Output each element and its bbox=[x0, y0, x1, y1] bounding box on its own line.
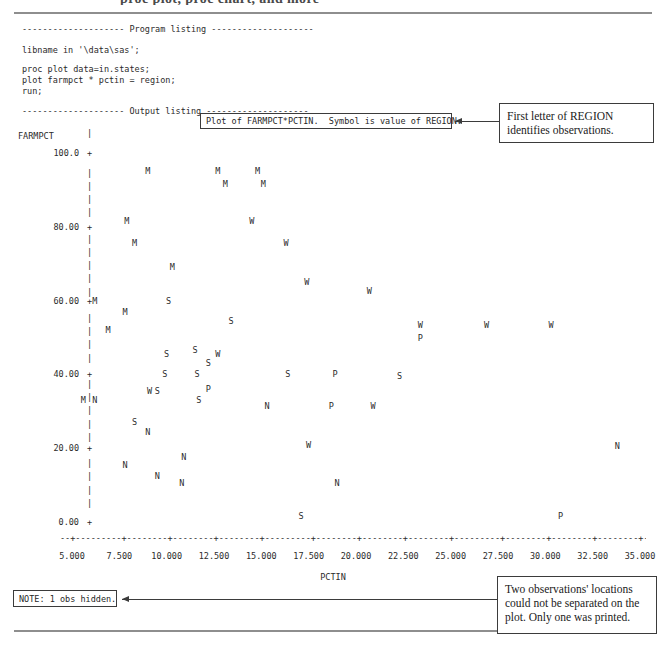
y-axis-stem: | bbox=[87, 181, 92, 191]
x-axis-tick-label: 32.500 bbox=[577, 551, 608, 561]
y-axis-stem: | bbox=[87, 498, 92, 508]
plot-point-N: N bbox=[264, 401, 269, 410]
x-axis-tick-label: 25.000 bbox=[435, 551, 466, 561]
y-axis-stem: | bbox=[87, 432, 92, 442]
plot-point-M: M bbox=[145, 167, 150, 176]
y-axis-stem: | bbox=[87, 419, 92, 429]
y-axis-stem: | bbox=[87, 273, 92, 283]
plot-point-M: M bbox=[92, 296, 97, 305]
y-axis-stem: | bbox=[87, 458, 92, 468]
y-axis-tick-label: 60.00 bbox=[29, 296, 79, 306]
plot-point-W: W bbox=[147, 387, 152, 396]
x-axis-tick-label: 30.000 bbox=[530, 551, 561, 561]
plot-point-W: W bbox=[249, 217, 254, 226]
plot-point-S: S bbox=[194, 370, 199, 379]
y-axis-tick-mark: + bbox=[87, 369, 92, 379]
y-axis-stem: | bbox=[87, 207, 92, 217]
plot-point-N: N bbox=[122, 460, 127, 469]
plot-point-N: N bbox=[145, 427, 150, 436]
plot-point-S: S bbox=[193, 346, 198, 355]
plot-point-W: W bbox=[418, 320, 423, 329]
plot-point-W: W bbox=[283, 239, 288, 248]
plot-point-N: N bbox=[92, 396, 97, 405]
plot-point-M: M bbox=[215, 167, 220, 176]
y-axis-stem: | bbox=[87, 194, 92, 204]
plot-point-S: S bbox=[206, 359, 211, 368]
y-axis-stem: | bbox=[87, 313, 92, 323]
y-axis-stem: | bbox=[87, 326, 92, 336]
y-axis-label: FARMPCT bbox=[18, 131, 54, 141]
note-obs-hidden: NOTE: 1 obs hidden. bbox=[13, 590, 117, 607]
plot-point-M: M bbox=[124, 217, 129, 226]
plot-point-N: N bbox=[335, 479, 340, 488]
plot-point-S: S bbox=[166, 296, 171, 305]
y-axis-tick-label: 0.00 bbox=[29, 517, 79, 527]
plot-point-W: W bbox=[215, 350, 220, 359]
plot-point-W: W bbox=[484, 320, 489, 329]
callout-hidden-note: Two observations' locations could not be… bbox=[497, 576, 657, 634]
x-axis-tick-label: 22.500 bbox=[388, 551, 419, 561]
plot-point-N: N bbox=[179, 479, 184, 488]
plot-point-P: P bbox=[558, 512, 563, 521]
y-axis-stem: | bbox=[87, 339, 92, 349]
plot-point-W: W bbox=[304, 278, 309, 287]
y-axis-tick-mark: + bbox=[87, 517, 92, 527]
x-axis-tick-label: 12.500 bbox=[199, 551, 230, 561]
x-axis-line: --+---------+--------+--------+--------+… bbox=[60, 533, 646, 543]
plot-point-S: S bbox=[155, 387, 160, 396]
plot-point-W: W bbox=[548, 320, 553, 329]
x-axis-tick-label: 35.000 bbox=[625, 551, 656, 561]
x-axis-tick-label: 7.500 bbox=[107, 551, 133, 561]
plot-point-S: S bbox=[228, 316, 233, 325]
plot-point-P: P bbox=[418, 333, 423, 342]
plot-point-P: P bbox=[333, 370, 338, 379]
plot-point-P: P bbox=[206, 385, 211, 394]
y-axis-stem: | bbox=[87, 260, 92, 270]
y-axis-stem: | bbox=[87, 234, 92, 244]
plot-point-N: N bbox=[615, 442, 620, 451]
plot-point-W: W bbox=[367, 287, 372, 296]
plot-point-M: M bbox=[81, 396, 86, 405]
plot-point-M: M bbox=[261, 180, 266, 189]
plot-point-S: S bbox=[285, 370, 290, 379]
x-axis-tick-label: 20.000 bbox=[341, 551, 372, 561]
plot-point-M: M bbox=[132, 239, 137, 248]
y-axis-tick-label: 40.00 bbox=[29, 369, 79, 379]
y-axis-tick-label: 100.0 bbox=[29, 148, 79, 158]
plot-point-M: M bbox=[105, 326, 110, 335]
x-axis-tick-label: 10.000 bbox=[151, 551, 182, 561]
x-axis-tick-label: 5.000 bbox=[59, 551, 85, 561]
y-axis-stem: | bbox=[87, 247, 92, 257]
plot-point-M: M bbox=[223, 180, 228, 189]
plot-point-W: W bbox=[306, 440, 311, 449]
y-axis-tick-mark: + bbox=[87, 148, 92, 158]
y-axis-stem: | bbox=[87, 405, 92, 415]
plot-point-S: S bbox=[164, 350, 169, 359]
y-axis-stem: | bbox=[87, 379, 92, 389]
page-root: proc plot, proc chart, and more --------… bbox=[0, 0, 666, 645]
y-axis-tick-label: 80.00 bbox=[29, 222, 79, 232]
plot-point-M: M bbox=[170, 263, 175, 272]
proc-plot-chart: FARMPCT PCTIN --+---------+--------+----… bbox=[0, 0, 666, 645]
y-axis-tick-label: 20.00 bbox=[29, 443, 79, 453]
plot-point-S: S bbox=[132, 418, 137, 427]
plot-point-M: M bbox=[255, 167, 260, 176]
y-axis-tick-mark: + bbox=[87, 222, 92, 232]
plot-point-M: M bbox=[122, 307, 127, 316]
plot-point-S: S bbox=[196, 396, 201, 405]
y-axis-tick-mark: + bbox=[87, 443, 92, 453]
y-axis-stem: | bbox=[87, 353, 92, 363]
plot-point-N: N bbox=[181, 453, 186, 462]
plot-point-W: W bbox=[370, 401, 375, 410]
x-axis-tick-label: 27.500 bbox=[483, 551, 514, 561]
y-axis-stem: | bbox=[87, 485, 92, 495]
x-axis-tick-label: 15.000 bbox=[246, 551, 277, 561]
y-axis-stem: | bbox=[87, 471, 92, 481]
y-axis-stem: | bbox=[87, 168, 92, 178]
plot-point-S: S bbox=[299, 512, 304, 521]
x-axis-tick-label: 17.500 bbox=[293, 551, 324, 561]
y-axis-stem: | bbox=[87, 128, 92, 138]
plot-point-S: S bbox=[162, 370, 167, 379]
plot-point-N: N bbox=[155, 471, 160, 480]
plot-point-P: P bbox=[329, 401, 334, 410]
